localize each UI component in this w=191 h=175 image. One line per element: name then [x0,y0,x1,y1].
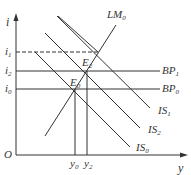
tick-i0: i0 [5,82,12,96]
is-lm-bp-diagram: i y O i1 i2 i0 y0 y2 LM0 BP1 BP0 IS1 IS2… [0,0,191,175]
tick-y0: y0 [69,157,79,171]
lm0-line [45,25,116,136]
point-e2: E2 [81,56,93,70]
point-e0: E0 [69,76,81,90]
y-axis-label: i [6,15,9,29]
is1-line [57,16,150,108]
label-is1: IS1 [157,104,171,118]
label-is0: IS0 [135,141,149,155]
x-axis-arrow-icon [180,153,188,158]
is-upper-line [58,16,98,52]
label-lm0: LM0 [106,8,126,22]
tick-y2: y2 [83,157,93,171]
x-axis-label: y [177,161,184,175]
label-bp1: BP1 [162,64,179,78]
label-is2: IS2 [147,123,161,137]
origin-label: O [4,148,12,160]
tick-i2: i2 [5,64,12,78]
y-axis-arrow-icon [14,13,19,21]
tick-i1: i1 [5,45,12,59]
label-bp0: BP0 [162,82,179,96]
